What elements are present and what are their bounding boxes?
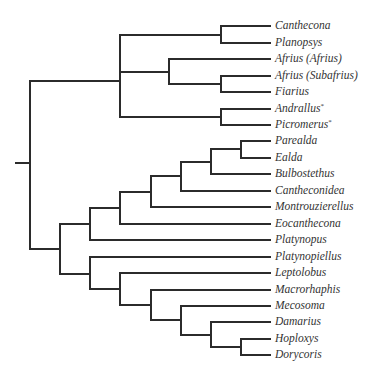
taxon-name: Mecosoma (275, 299, 325, 311)
taxon-name: Macrorhaphis (275, 283, 340, 295)
leaf-label: Hoploxys (275, 333, 318, 345)
leaf-label: Parealda (275, 135, 317, 147)
leaf-label: Cantheconidea (275, 185, 345, 197)
taxon-name: Fiarius (275, 85, 309, 97)
taxon-name: Montrouzierellus (275, 200, 353, 212)
taxon-name: Bulbostethus (275, 167, 334, 179)
taxon-name: Platynopus (275, 233, 327, 245)
leaf-label: Platynopiellus (275, 251, 341, 262)
leaf-label: Damarius (275, 316, 321, 328)
taxon-name: Eocanthecona (275, 217, 341, 229)
taxon-name: Damarius (275, 315, 321, 327)
taxon-marker: * (328, 118, 332, 126)
taxon-name: Andrallus (275, 102, 320, 114)
leaf-label: Afrius (Subafrius) (275, 70, 358, 82)
leaf-label: Bulbostethus (275, 168, 334, 180)
taxon-name: Hoploxys (275, 332, 318, 344)
leaf-label: Picromerus* (275, 119, 332, 131)
leaf-label: Ealda (275, 152, 302, 164)
taxon-name: Ealda (275, 151, 302, 163)
taxon-name: Cantheconidea (275, 184, 345, 196)
leaf-label: Macrorhaphis (275, 284, 340, 296)
leaf-label: Canthecona (275, 20, 331, 32)
taxon-name: Parealda (275, 134, 317, 146)
leaf-label: Eocanthecona (275, 218, 341, 230)
leaf-label: Platynopus (275, 234, 327, 246)
taxon-name: Afrius (Subafrius) (275, 69, 358, 81)
leaf-label: Leptolobus (275, 267, 326, 279)
leaf-label: Dorycoris (275, 349, 322, 361)
taxon-name: Canthecona (275, 19, 331, 31)
leaf-label: Montrouzierellus (275, 201, 353, 213)
leaf-label: Planopsys (275, 37, 322, 49)
taxon-name: Platynopiellus (275, 250, 341, 262)
leaf-label: Andrallus* (275, 103, 324, 115)
taxon-name: Afrius (Afrius) (275, 52, 342, 64)
taxon-name: Picromerus (275, 118, 328, 130)
leaf-label: Fiarius (275, 86, 309, 98)
taxon-marker: * (320, 102, 324, 110)
leaf-label: Afrius (Afrius) (275, 53, 342, 65)
leaf-label: Mecosoma (275, 300, 325, 312)
taxon-name: Dorycoris (275, 348, 322, 360)
taxon-name: Leptolobus (275, 266, 326, 278)
taxon-name: Planopsys (275, 36, 322, 48)
